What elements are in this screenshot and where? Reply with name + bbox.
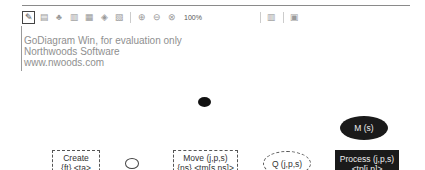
align-top-icon[interactable]: ▦: [83, 11, 95, 23]
layout-icon[interactable]: ▣: [289, 11, 301, 23]
node-m[interactable]: M (s): [340, 116, 388, 140]
node-process[interactable]: Process (j,p,s)<tp[j,p]>: [335, 150, 399, 170]
start-node[interactable]: [198, 97, 211, 107]
toolbar-separator: [130, 12, 131, 23]
node-move[interactable]: Move (j,p,s){ns} <tm[s,ns]>: [173, 150, 238, 170]
align-bottom-icon[interactable]: ▧: [113, 11, 125, 23]
evaluation-watermark: GoDiagram Win, for evaluation only North…: [24, 35, 182, 68]
watermark-line: www.nwoods.com: [24, 57, 182, 68]
canvas-left-border: [21, 26, 22, 71]
toolbar: ✎ ▤ ♣ ▥ ▦ ◈ ▧ ⊕ ⊖ ⊗ 100% ▥ ▣: [22, 9, 301, 25]
watermark-line: Northwoods Software: [24, 46, 182, 57]
align-left-icon[interactable]: ▤: [38, 11, 50, 23]
grid-icon[interactable]: ▥: [266, 11, 278, 23]
align-right-icon[interactable]: ▥: [68, 11, 80, 23]
watermark-line: GoDiagram Win, for evaluation only: [24, 35, 182, 46]
zoom-in-icon[interactable]: ⊕: [136, 11, 148, 23]
canvas-top-border: [22, 5, 410, 6]
node-q[interactable]: Q (j,p,s): [263, 151, 311, 170]
align-middle-icon[interactable]: ◈: [98, 11, 110, 23]
zoom-out-icon[interactable]: ⊖: [151, 11, 163, 23]
toolbar-separator: [260, 12, 261, 23]
node-create[interactable]: Create{ft} <ta>: [52, 150, 100, 170]
zoom-level: 100%: [184, 14, 202, 21]
align-center-icon[interactable]: ♣: [53, 11, 65, 23]
pointer-tool-icon[interactable]: ✎: [22, 11, 35, 24]
toolbar-separator: [283, 12, 284, 23]
connector-node[interactable]: [125, 158, 139, 169]
zoom-fit-icon[interactable]: ⊗: [166, 11, 178, 23]
